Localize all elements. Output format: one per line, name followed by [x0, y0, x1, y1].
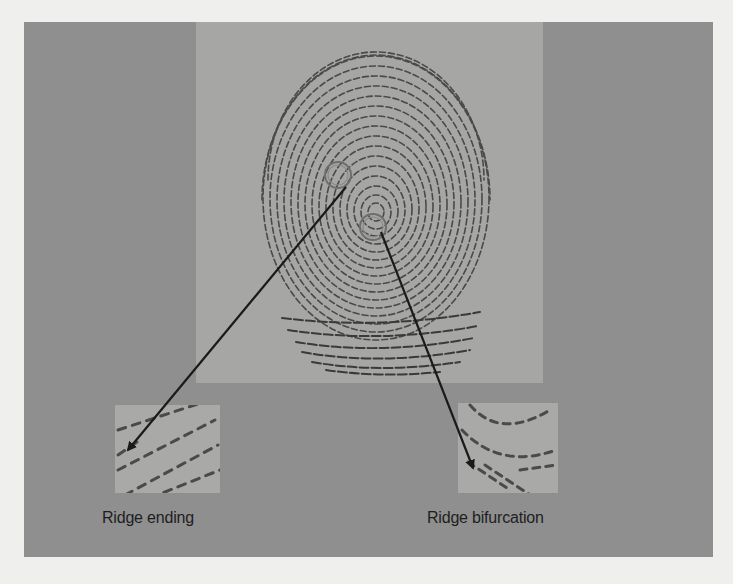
ridge-ending-label: Ridge ending — [102, 509, 194, 527]
ridge-bifurcation-label: Ridge bifurcation — [427, 509, 544, 527]
fingerprint-diagram — [0, 0, 733, 584]
ridge-ending-arrow — [128, 187, 346, 450]
ridge-bifurcation-detail — [462, 405, 556, 495]
ridge-ending-detail — [118, 400, 220, 498]
fingerprint-image — [262, 52, 490, 375]
